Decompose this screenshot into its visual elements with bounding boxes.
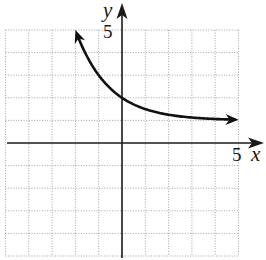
x-axis [7, 138, 264, 149]
x-axis-label: x [250, 142, 261, 166]
x-tick-label: 5 [232, 144, 242, 165]
graph: y 5 5 x [0, 0, 266, 260]
y-axis [117, 3, 128, 258]
curve-path [78, 37, 235, 119]
curve [75, 30, 239, 125]
y-tick-label: 5 [103, 21, 113, 42]
y-axis-label: y [101, 0, 113, 22]
